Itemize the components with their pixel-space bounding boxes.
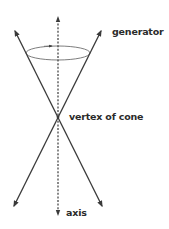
vertex-point bbox=[57, 116, 60, 119]
axis-top-arrow-icon bbox=[56, 16, 60, 22]
axis-label: axis bbox=[66, 207, 87, 218]
generator-label: generator bbox=[112, 26, 164, 37]
vertex-label: vertex of cone bbox=[69, 111, 143, 122]
axis-bottom-arrow-icon bbox=[56, 210, 60, 216]
